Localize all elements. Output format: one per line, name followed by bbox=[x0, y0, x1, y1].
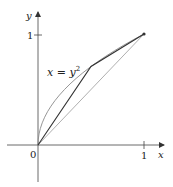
origin-label: 0 bbox=[30, 149, 36, 160]
diagram-canvas: y 1 0 1 x x = y2 bbox=[0, 0, 173, 187]
y-tick-label: 1 bbox=[27, 30, 33, 41]
curve-label-base: x = y bbox=[47, 66, 76, 79]
endpoint-dot bbox=[142, 32, 145, 35]
x-tick-label: 1 bbox=[141, 150, 147, 161]
curve-label: x = y2 bbox=[47, 65, 80, 79]
y-axis-label: y bbox=[25, 10, 32, 21]
x-axis-label: x bbox=[158, 149, 164, 160]
curve-label-exponent: 2 bbox=[76, 65, 80, 73]
diagonal-line bbox=[38, 34, 144, 145]
